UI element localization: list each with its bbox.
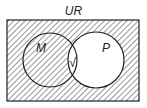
venn-diagram: M P √ [0,0,147,108]
set-p-label: P [102,41,110,55]
intersection-check-mark: √ [69,55,77,70]
set-m-label: M [36,41,46,55]
